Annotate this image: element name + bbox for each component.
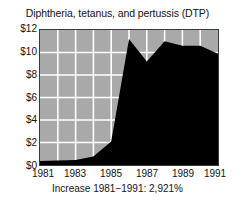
x-tick-label: 1991 bbox=[204, 168, 226, 180]
chart-figure: Diphtheria, tetanus, and pertussis (DTP)… bbox=[0, 0, 235, 204]
chart-caption: Increase 1981−1991: 2,921% bbox=[0, 183, 235, 194]
x-tick-label: 1983 bbox=[64, 168, 86, 180]
chart-title: Diphtheria, tetanus, and pertussis (DTP) bbox=[0, 7, 235, 19]
y-tick-label: $12 bbox=[1, 24, 37, 34]
y-tick-label: $6 bbox=[1, 93, 37, 103]
y-axis: $0$2$4$6$8$10$12 bbox=[0, 29, 37, 166]
y-tick-label: $8 bbox=[1, 70, 37, 80]
area-fill bbox=[40, 39, 218, 165]
x-tick-label: 1987 bbox=[136, 168, 158, 180]
plot-area bbox=[39, 29, 219, 166]
x-axis: 198119831985198719891991 bbox=[39, 168, 219, 182]
x-tick-label: 1989 bbox=[172, 168, 194, 180]
y-tick-label: $2 bbox=[1, 138, 37, 148]
y-tick-label: $4 bbox=[1, 115, 37, 125]
y-tick-label: $10 bbox=[1, 47, 37, 57]
x-tick-label: 1985 bbox=[100, 168, 122, 180]
x-tick-label: 1981 bbox=[32, 168, 54, 180]
area-series-dtp bbox=[40, 30, 218, 165]
